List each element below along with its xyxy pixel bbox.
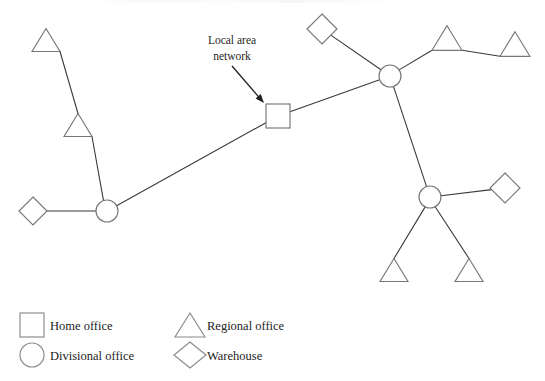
node-regional-office-regional-ne-a: [432, 26, 462, 51]
legend-square-icon: [20, 313, 44, 337]
link-divisional-se-to-regional-se-b: [435, 207, 469, 259]
legend-label-circle: Divisional office: [50, 349, 135, 363]
legend-label-square: Home office: [50, 319, 113, 333]
node-divisional-office-divisional-left: [96, 200, 118, 222]
node-regional-office-regional-mid-nw: [64, 114, 92, 137]
legend: Home officeDivisional officeRegional off…: [20, 313, 285, 368]
link-regional-mid-nw-to-divisional-left: [92, 136, 103, 200]
node-warehouse-warehouse-e: [490, 173, 520, 203]
legend-triangle-icon: [175, 313, 205, 337]
annotation-arrow-shaft: [232, 66, 259, 97]
link-divisional-se-to-regional-se-a: [394, 207, 425, 259]
link-regional-far-nw-to-regional-mid-nw: [60, 51, 78, 113]
node-warehouse-warehouse-n: [307, 14, 337, 44]
legend-item-triangle: Regional office: [175, 313, 285, 337]
legend-label-diamond: Warehouse: [207, 349, 263, 363]
annotation-label-line2: network: [213, 50, 251, 62]
diagram-canvas: Local area network Home officeDivisional…: [0, 0, 545, 381]
node-divisional-office-divisional-se: [419, 186, 441, 208]
legend-item-diamond: Warehouse: [174, 342, 263, 368]
node-regional-office-regional-se-a: [380, 259, 408, 282]
legend-item-square: Home office: [20, 313, 113, 337]
link-divisional-left-to-lan-square: [117, 123, 266, 206]
link-regional-ne-a-to-regional-ne-b: [462, 50, 500, 56]
node-layer: [19, 14, 530, 281]
link-divisional-se-to-warehouse-e: [441, 190, 492, 196]
link-warehouse-n-to-divisional-ne: [331, 35, 381, 70]
link-layer: [47, 35, 500, 258]
link-divisional-ne-to-regional-ne-a: [399, 50, 432, 70]
node-warehouse-warehouse-w: [19, 197, 47, 225]
node-regional-office-regional-far-nw: [32, 29, 60, 52]
network-diagram: Local area network Home officeDivisional…: [0, 0, 545, 381]
node-regional-office-regional-se-b: [455, 259, 483, 282]
annotation-label-line1: Local area: [208, 34, 256, 46]
legend-circle-icon: [20, 343, 44, 367]
legend-label-triangle: Regional office: [207, 319, 285, 333]
link-divisional-ne-to-divisional-se: [393, 86, 426, 186]
node-home-office-lan-square: [266, 104, 290, 128]
node-regional-office-regional-ne-b: [500, 32, 530, 57]
node-divisional-office-divisional-ne: [379, 65, 401, 87]
link-lan-square-to-divisional-ne: [290, 80, 380, 112]
annotation-arrow-icon: [232, 66, 264, 103]
legend-item-circle: Divisional office: [20, 343, 135, 367]
legend-diamond-icon: [174, 342, 206, 368]
lan-annotation: Local area network: [208, 34, 264, 103]
